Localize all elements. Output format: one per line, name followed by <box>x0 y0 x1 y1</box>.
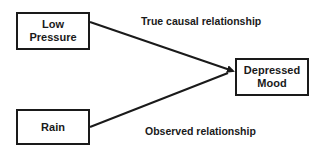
true-causal-arrow <box>90 22 233 71</box>
node-low-pressure-line1: Low <box>29 18 76 31</box>
node-rain-label: Rain <box>41 121 65 134</box>
node-low-pressure-line2: Pressure <box>29 31 76 44</box>
node-depressed-mood-line2: Mood <box>244 77 300 90</box>
observed-line <box>90 73 228 127</box>
node-depressed-mood: Depressed Mood <box>235 58 309 96</box>
node-rain: Rain <box>16 109 90 145</box>
true-causal-label: True causal relationship <box>141 15 261 27</box>
node-depressed-mood-line1: Depressed <box>244 64 300 77</box>
observed-label: Observed relationship <box>145 125 256 137</box>
node-low-pressure: Low Pressure <box>16 12 90 50</box>
